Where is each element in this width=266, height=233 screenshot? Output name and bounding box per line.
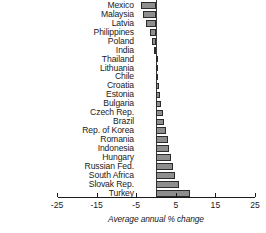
bar	[154, 47, 156, 54]
bar	[156, 127, 166, 134]
x-axis-tick	[255, 193, 256, 197]
x-axis-line	[58, 197, 255, 198]
bar	[156, 110, 163, 117]
bar	[141, 2, 156, 9]
x-axis-tick-label: -15	[83, 201, 111, 210]
bar	[152, 38, 156, 45]
bar	[156, 163, 173, 170]
bar	[156, 101, 161, 108]
x-axis-tick	[176, 193, 177, 197]
horizontal-bar-chart: MexicoMalaysiaLatviaPhilippinesPolandInd…	[0, 0, 266, 233]
bar	[156, 136, 168, 143]
x-axis-tick-label: -25	[43, 201, 71, 210]
x-axis-tick-label: 25	[241, 201, 266, 210]
x-axis-tick	[97, 193, 98, 197]
bar	[156, 190, 190, 197]
bar	[156, 92, 160, 99]
x-axis-tick-label: -5	[122, 201, 150, 210]
plot-area	[0, 0, 266, 197]
x-axis-tick	[136, 193, 137, 197]
bar	[146, 20, 156, 27]
bar	[156, 56, 158, 63]
x-axis-tick-label: 15	[201, 201, 229, 210]
bar	[150, 29, 156, 36]
bar	[156, 154, 171, 161]
bar	[156, 65, 158, 72]
bar	[156, 119, 164, 126]
x-axis-tick	[57, 193, 58, 197]
x-axis-tick-label: 5	[162, 201, 190, 210]
x-axis-tick	[215, 193, 216, 197]
bar	[156, 145, 169, 152]
bar	[156, 172, 175, 179]
bar	[156, 74, 158, 81]
x-axis-title: Average annual % change	[76, 214, 236, 224]
bar	[143, 11, 156, 18]
bar	[156, 83, 159, 90]
bar	[156, 181, 179, 188]
